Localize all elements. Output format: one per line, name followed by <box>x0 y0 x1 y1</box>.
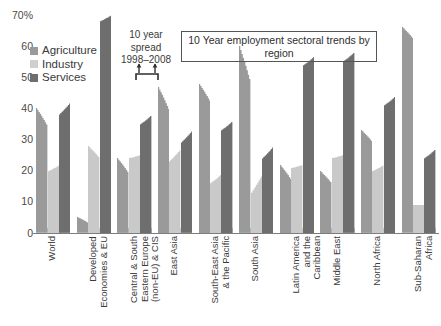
x-tick-label: Middle East <box>332 236 343 286</box>
x-axis-baseline <box>33 233 439 234</box>
legend-item-industry: Industry <box>30 58 97 72</box>
bar-services <box>343 52 354 233</box>
y-tick-label: 30 <box>0 134 33 145</box>
bar-industry <box>332 155 343 233</box>
y-tick-label: 70% <box>0 10 33 21</box>
bar-services <box>262 146 273 233</box>
bar-services <box>221 121 232 233</box>
bar-industry <box>251 174 262 233</box>
bar-industry <box>169 149 180 233</box>
y-tick-label: 20 <box>0 165 33 176</box>
bar-services <box>59 102 70 233</box>
spread-bracket-icon <box>134 62 160 82</box>
chart-title-box: 10 Year employment sectoral trends by re… <box>181 31 377 62</box>
legend-label-services: Services <box>42 72 86 84</box>
y-tick-label: 0 <box>0 228 33 239</box>
bar-agriculture <box>36 108 47 233</box>
legend-label-agriculture: Agriculture <box>42 45 97 57</box>
bar-services <box>140 115 151 233</box>
y-tick-label: 10 <box>0 196 33 207</box>
y-axis: 70%6050403020100 <box>0 0 33 326</box>
x-tick-label: South-East Asia & the Pacific <box>210 236 231 304</box>
bar-agriculture <box>402 27 413 233</box>
y-tick-label: 40 <box>0 103 33 114</box>
x-tick-label: Developed Economies & EU <box>88 236 109 308</box>
x-tick-label: World <box>47 236 58 261</box>
bar-industry <box>291 165 302 234</box>
bar-group <box>398 16 439 234</box>
legend-label-industry: Industry <box>42 59 83 71</box>
x-tick-label: Latin America and the Caribbean <box>291 236 323 294</box>
bar-industry <box>129 155 140 233</box>
legend-item-services: Services <box>30 71 97 85</box>
x-tick-label: Sub-Saharan Africa <box>413 236 434 292</box>
bar-services <box>303 56 314 234</box>
legend-item-agriculture: Agriculture <box>30 44 97 58</box>
bar-agriculture <box>158 87 169 233</box>
chart-title-text: 10 Year employment sectoral trends by re… <box>186 34 372 60</box>
bar-services <box>424 149 435 233</box>
legend-swatch-agriculture <box>30 47 38 55</box>
chart-canvas: 70%6050403020100 Agriculture Industry Se… <box>0 0 441 326</box>
bar-services <box>100 15 111 233</box>
x-tick-label: North Africa <box>372 236 383 286</box>
y-tick-label: 60 <box>0 41 33 52</box>
legend: Agriculture Industry Services <box>30 44 97 85</box>
bar-services <box>384 96 395 233</box>
bar-agriculture <box>361 130 372 233</box>
legend-swatch-industry <box>30 60 38 68</box>
bar-agriculture <box>320 171 331 233</box>
bar-industry <box>413 205 424 233</box>
x-tick-label: South Asia <box>250 236 261 281</box>
bar-services <box>181 130 192 233</box>
x-tick-label: Central & South Eastern Europe (non-EU) … <box>129 236 161 303</box>
bar-industry <box>48 165 59 234</box>
y-tick-label: 50 <box>0 72 33 83</box>
x-axis-labels: WorldDeveloped Economies & EUCentral & S… <box>33 236 439 326</box>
spread-annotation-line1: 10 year <box>113 29 179 42</box>
x-tick-label: East Asia <box>169 236 180 276</box>
bar-industry <box>372 165 383 234</box>
bar-industry <box>210 174 221 233</box>
legend-swatch-services <box>30 74 38 82</box>
bar-agriculture <box>280 165 291 234</box>
bar-agriculture <box>199 84 210 233</box>
spread-annotation-line2: spread <box>113 42 179 55</box>
bar-agriculture <box>239 46 250 233</box>
bar-industry <box>88 146 99 233</box>
bar-agriculture <box>77 217 88 233</box>
bar-agriculture <box>117 158 128 233</box>
spread-annotation: 10 year spread 1998–2008 <box>113 29 179 67</box>
